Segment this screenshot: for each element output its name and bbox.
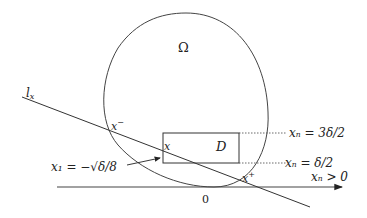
point-label-x-minus: x− bbox=[111, 118, 124, 133]
box-label-d: D bbox=[215, 139, 227, 154]
box-d bbox=[163, 133, 239, 163]
region-label-omega: Ω bbox=[178, 40, 189, 55]
point-label-x-plus: x+ bbox=[242, 170, 255, 185]
origin-label: 0 bbox=[202, 193, 209, 206]
diagram-canvas: Ω lx x− x D x+ 0 x₁ = −√δ/8 xₙ = 3δ/2 xₙ… bbox=[0, 0, 367, 218]
point-label-x: x bbox=[164, 140, 171, 153]
line-label-l: lx bbox=[26, 86, 35, 101]
annotation-x1: x₁ = −√δ/8 bbox=[51, 160, 117, 174]
annotation-xn-lower: xₙ = δ/2 bbox=[285, 156, 333, 170]
annotation-xn-upper: xₙ = 3δ/2 bbox=[289, 126, 345, 140]
annotation-arrow bbox=[127, 158, 160, 165]
annotation-halfspace: xₙ > 0 bbox=[311, 170, 348, 184]
